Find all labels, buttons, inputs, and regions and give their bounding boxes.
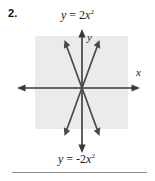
exercise-figure: 2. y = 2x2 <box>0 0 155 181</box>
x-axis-label: x <box>135 66 141 78</box>
equation-upper-exponent: 2 <box>90 8 94 16</box>
section-divider-rule <box>12 172 147 173</box>
x-axis-arrow-right <box>132 84 141 91</box>
equation-lower-lhs: y <box>58 152 63 166</box>
equation-lower-operator: = <box>66 152 73 166</box>
problem-number: 2. <box>8 7 18 20</box>
coordinate-plane: y x <box>0 26 155 154</box>
equation-label-upper-parabola: y = 2x2 <box>61 8 94 22</box>
equation-upper-lhs: y <box>61 8 66 22</box>
graph-svg: y x <box>0 26 155 154</box>
y-axis-arrow-up <box>78 29 85 38</box>
equation-lower-coefficient: -2 <box>76 152 86 166</box>
equation-lower-exponent: 2 <box>91 152 95 160</box>
y-axis-label: y <box>86 31 92 43</box>
x-axis-arrow-left <box>17 84 26 91</box>
equation-upper-operator: = <box>69 8 76 22</box>
equation-label-lower-parabola: y = -2x2 <box>58 152 95 166</box>
